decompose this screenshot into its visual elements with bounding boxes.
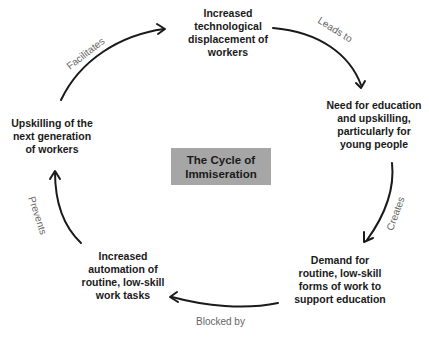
node-line: automation of <box>68 263 178 276</box>
node-line: Upskilling of the <box>8 117 96 130</box>
node-upskilling-next-generation: Upskilling of the next generation of wor… <box>8 117 96 156</box>
arrow-blocked-by <box>172 297 278 307</box>
node-line: Demand for <box>284 254 396 267</box>
node-line: displacement of <box>172 33 284 46</box>
node-technological-displacement: Increased technological displacement of … <box>172 7 284 59</box>
node-line: next generation <box>8 130 96 143</box>
node-line: young people <box>320 138 428 151</box>
center-title-line-1: The Cycle of <box>187 153 255 167</box>
node-line: routine, low-skill <box>68 276 178 289</box>
node-line: Increased <box>172 7 284 20</box>
node-line: forms of work to <box>284 280 396 293</box>
node-line: of workers <box>8 143 96 156</box>
node-line: Increased <box>68 250 178 263</box>
edge-label-blocked-by: Blocked by <box>196 316 245 327</box>
node-line: work tasks <box>68 289 178 302</box>
node-line: Need for education <box>320 99 428 112</box>
node-line: particularly for <box>320 125 428 138</box>
node-demand-for-routine-work: Demand for routine, low-skill forms of w… <box>284 254 396 306</box>
node-line: support education <box>284 293 396 306</box>
node-line: and upskilling, <box>320 112 428 125</box>
node-need-for-education: Need for education and upskilling, parti… <box>320 99 428 151</box>
arrow-prevents <box>55 172 81 243</box>
node-increased-automation: Increased automation of routine, low-ski… <box>68 250 178 302</box>
node-line: routine, low-skill <box>284 267 396 280</box>
node-line: technological <box>172 20 284 33</box>
center-title-box: The Cycle of Immiseration <box>171 148 271 185</box>
node-line: workers <box>172 46 284 59</box>
center-title-line-2: Immiseration <box>185 167 257 181</box>
